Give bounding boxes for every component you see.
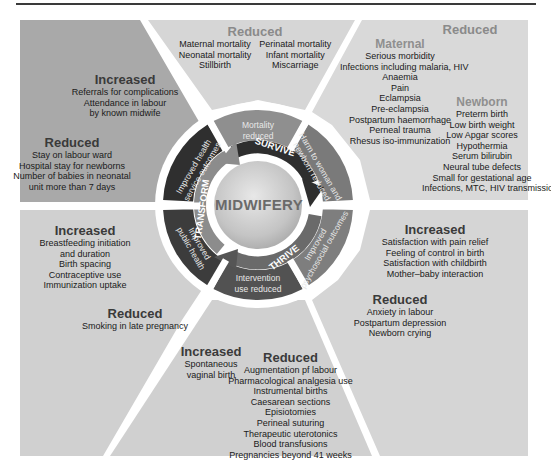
heading-increased: Increased <box>30 223 140 238</box>
list-item: Pregnancies beyond 41 weeks <box>228 450 353 461</box>
panel-bottom-right-reduced: Reduced Anxiety in labour Postpartum dep… <box>330 292 470 339</box>
panel-top-left-reduced: Reduced Stay on labour ward Hospital sta… <box>12 135 132 192</box>
list-item: Miscarriage <box>259 60 331 71</box>
ring-label-intervention: Interventionuse reduced <box>235 273 282 294</box>
center-label: MIDWIFERY <box>200 196 318 213</box>
list-item: Neural tube defects <box>422 162 542 173</box>
list-item: Blood transfusions <box>228 439 353 450</box>
list-item: Attendance in labour <box>60 98 190 109</box>
list-item: Immunization uptake <box>30 280 140 291</box>
list-item: Postpartum depression <box>330 318 470 329</box>
list-item: Birth spacing <box>30 259 140 270</box>
list-item: Satisfaction with childbirth <box>370 258 500 269</box>
list-item: Instrumental births <box>228 386 353 397</box>
list-item: Anxiety in labour <box>330 307 470 318</box>
list-item: Referrals for complications <box>60 87 190 98</box>
heading-maternal: Maternal <box>340 37 460 51</box>
list-item: Satisfaction with pain relief <box>370 237 500 248</box>
list-mortality-col2: Perinatal mortality Infant mortality Mis… <box>259 39 331 71</box>
list-item: Smoking in late pregnancy <box>70 321 200 332</box>
list-item: and duration <box>30 249 140 260</box>
panel-bottom-right-increased: Increased Satisfaction with pain relief … <box>370 222 500 279</box>
list-item: Low Apgar scores <box>422 130 542 141</box>
list-item: Pharmacological analgesia use <box>228 376 353 387</box>
list-item: Infections including malaria, HIV <box>340 62 460 73</box>
list-item: Feeling of control in birth <box>370 248 500 259</box>
heading-reduced: Reduced <box>70 306 200 321</box>
list-item: Serious morbidity <box>340 51 460 62</box>
list-item: Stillbirth <box>179 60 252 71</box>
panel-bottom-left-increased: Increased Breastfeeding initiation and d… <box>30 223 140 291</box>
heading-reduced: Reduced <box>228 350 353 365</box>
list-item: unit more than 7 days <box>12 182 132 193</box>
list-item: Breastfeeding initiation <box>30 238 140 249</box>
panel-top-right-heading: Reduced <box>420 22 520 37</box>
list-item: Maternal mortality <box>179 39 252 50</box>
heading-reduced: Reduced <box>150 24 360 39</box>
list-item: Small for gestational age <box>422 173 542 184</box>
list-item: Caesarean sections <box>228 397 353 408</box>
list-mortality-col1: Maternal mortality Neonatal mortality St… <box>179 39 252 71</box>
list-item: Augmentation pf labour <box>228 365 353 376</box>
list-item: Mother–baby interaction <box>370 269 500 280</box>
panel-top-center-text: Reduced Maternal mortality Neonatal mort… <box>150 24 360 71</box>
heading-increased: Increased <box>60 72 190 87</box>
panel-top-left-increased: Increased Referrals for complications At… <box>60 72 190 119</box>
list-item: Anaemia <box>340 72 460 83</box>
list-item: Pain <box>340 83 460 94</box>
list-item: Number of babies in neonatal <box>12 171 132 182</box>
list-item: Contraceptive use <box>30 270 140 281</box>
list-item: Episiotomies <box>228 407 353 418</box>
list-item: Hypothermia <box>422 141 542 152</box>
heading-reduced: Reduced <box>330 292 470 307</box>
list-item: Hospital stay for newborns <box>12 161 132 172</box>
list-item: Therapeutic uterotonics <box>228 429 353 440</box>
list-item: Serum bilirubin <box>422 151 542 162</box>
list-item: Perinatal mortality <box>259 39 331 50</box>
heading-newborn: Newborn <box>422 95 542 109</box>
list-item: Low birth weight <box>422 120 542 131</box>
list-item: by known midwife <box>60 108 190 119</box>
list-item: Perineal suturing <box>228 418 353 429</box>
panel-top-right-newborn: Newborn Preterm birth Low birth weight L… <box>422 95 542 194</box>
list-item: Infant mortality <box>259 50 331 61</box>
heading-reduced: Reduced <box>12 135 132 150</box>
panel-bottom-center-reduced: Reduced Augmentation pf labour Pharmacol… <box>228 350 353 460</box>
list-item: Stay on labour ward <box>12 150 132 161</box>
list-item: Preterm birth <box>422 109 542 120</box>
list-item: Newborn crying <box>330 328 470 339</box>
heading-increased: Increased <box>370 222 500 237</box>
heading-reduced: Reduced <box>420 22 520 37</box>
list-item: Neonatal mortality <box>179 50 252 61</box>
panel-bottom-left-reduced: Reduced Smoking in late pregnancy <box>70 306 200 332</box>
list-item: Infections, MTC, HIV transmission <box>422 183 542 194</box>
